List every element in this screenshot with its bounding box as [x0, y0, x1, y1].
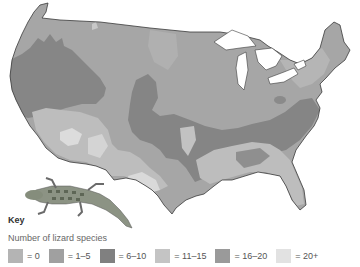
legend: = 0 = 1–5 = 6–10 = 11–15 = 16–20 = 20+: [8, 249, 327, 263]
legend-swatch: [49, 249, 64, 263]
key-subtitle: Number of lizard species: [8, 233, 107, 243]
legend-swatch: [155, 249, 170, 263]
legend-label: = 1–5: [68, 251, 91, 261]
legend-item-0: = 0: [8, 249, 40, 263]
legend-label: = 6–10: [119, 251, 147, 261]
legend-item-16-20: = 16–20: [215, 249, 267, 263]
legend-swatch: [8, 249, 23, 263]
legend-label: = 20+: [295, 251, 318, 261]
legend-label: = 11–15: [174, 251, 206, 261]
legend-item-11-15: = 11–15: [155, 249, 206, 263]
legend-label: = 0: [27, 251, 40, 261]
us-lizard-species-map: [0, 0, 360, 267]
legend-swatch: [276, 249, 291, 263]
legend-swatch: [100, 249, 115, 263]
legend-item-20-plus: = 20+: [276, 249, 318, 263]
legend-swatch: [215, 249, 230, 263]
lizard-illustration: [25, 178, 132, 228]
legend-label: = 16–20: [234, 251, 267, 261]
legend-item-1-5: = 1–5: [49, 249, 91, 263]
legend-item-6-10: = 6–10: [100, 249, 147, 263]
key-title: Key: [8, 215, 25, 225]
